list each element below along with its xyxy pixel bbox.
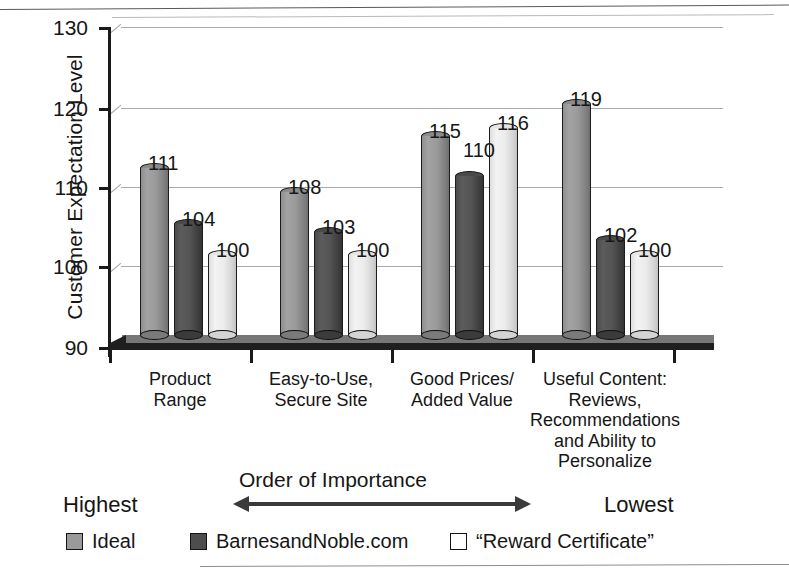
bar-ideal-useful-content	[562, 99, 591, 335]
bar-body	[140, 168, 169, 335]
category-line: Recommendations	[530, 410, 680, 431]
page-rule-top-secondary	[112, 14, 774, 18]
legend-item-barnesandnoble: BarnesandNoble.com	[190, 531, 408, 551]
value-label-ideal-useful-content: 119	[570, 89, 602, 109]
bar-bn-product-range	[174, 219, 203, 335]
value-label-reward-useful-content: 100	[638, 240, 671, 260]
legend-swatch-reward-certificate	[450, 533, 467, 550]
value-label-ideal-easy-to-use: 108	[288, 177, 321, 197]
bar-ideal-product-range	[140, 163, 169, 335]
bar-body	[174, 224, 203, 335]
floor-front-face	[110, 343, 714, 350]
value-label-bn-good-prices: 110	[463, 140, 495, 160]
category-line: Range	[110, 390, 250, 411]
bar-reward-product-range	[208, 250, 237, 335]
chart-figure: Customer Expectation Level	[0, 0, 789, 574]
category-line: Useful Content:	[530, 369, 680, 390]
x-tick-2	[391, 350, 394, 363]
category-line: and Ability to	[530, 431, 680, 452]
legend-swatch-barnesandnoble	[190, 533, 207, 550]
bar-body	[562, 104, 591, 335]
bar-reward-easy-to-use	[348, 250, 377, 335]
legend-item-reward-certificate: “Reward Certificate”	[450, 531, 654, 551]
bar-base	[421, 330, 450, 340]
bar-bn-good-prices	[455, 171, 484, 335]
bar-reward-useful-content	[630, 250, 659, 335]
bar-body	[596, 240, 625, 335]
y-tick-130	[99, 27, 111, 30]
legend-label-barnesandnoble: BarnesandNoble.com	[216, 531, 408, 551]
bar-base	[630, 330, 659, 340]
y-tick-label-110: 110	[42, 177, 88, 198]
value-label-reward-good-prices: 116	[497, 113, 529, 133]
y-tick-label-100: 100	[42, 256, 88, 277]
gridline-130	[121, 27, 723, 28]
bar-base	[489, 330, 518, 340]
bar-base	[174, 330, 203, 340]
category-line: Good Prices/	[391, 369, 533, 390]
bar-base	[280, 330, 309, 340]
bar-body	[455, 176, 484, 335]
page-rule-top	[0, 5, 789, 10]
chart-legend: Ideal BarnesandNoble.com “Reward Certifi…	[0, 527, 789, 555]
category-line: Secure Site	[250, 390, 392, 411]
bar-body	[314, 232, 343, 335]
category-label-easy-to-use: Easy-to-Use, Secure Site	[250, 369, 392, 410]
floor-left-skew	[110, 335, 126, 343]
y-tick-label-130: 130	[42, 17, 88, 38]
importance-right-label: Lowest	[604, 494, 674, 516]
bar-body	[208, 255, 237, 335]
bar-base	[455, 330, 484, 340]
bar-bn-useful-content	[596, 235, 625, 335]
bar-body	[630, 255, 659, 335]
importance-axis-title: Order of Importance	[239, 469, 427, 490]
bar-base	[140, 330, 169, 340]
value-label-ideal-good-prices: 115	[429, 121, 461, 141]
category-line: Product	[110, 369, 250, 390]
gridline-riser-110	[111, 184, 122, 193]
y-tick-110	[99, 187, 111, 190]
y-axis-line	[108, 27, 111, 357]
value-label-bn-useful-content: 102	[604, 225, 637, 245]
arrow-shaft	[247, 502, 517, 506]
bar-body	[280, 192, 309, 335]
value-label-bn-product-range: 104	[182, 209, 215, 229]
bar-ideal-easy-to-use	[280, 187, 309, 335]
category-label-useful-content: Useful Content: Reviews, Recommendations…	[530, 369, 680, 472]
gridline-riser-100	[111, 263, 122, 272]
y-tick-120	[99, 108, 111, 111]
x-tick-0	[109, 350, 112, 363]
y-tick-label-90: 90	[42, 337, 88, 358]
bar-body	[348, 255, 377, 335]
legend-label-ideal: Ideal	[92, 531, 135, 551]
bar-base	[562, 330, 591, 340]
importance-double-arrow	[233, 496, 531, 512]
plot-area	[108, 20, 723, 356]
gridline-riser-130	[111, 24, 122, 33]
x-tick-3	[532, 350, 535, 363]
bar-base	[208, 330, 237, 340]
gridline-120	[121, 108, 723, 109]
page-rule-bottom	[200, 564, 789, 567]
x-tick-4	[673, 350, 676, 363]
bar-body	[421, 136, 450, 335]
bar-bn-easy-to-use	[314, 227, 343, 335]
value-label-reward-product-range: 100	[216, 240, 249, 260]
legend-swatch-ideal	[66, 533, 83, 550]
bar-base	[348, 330, 377, 340]
legend-item-ideal: Ideal	[66, 531, 135, 551]
gridline-riser-120	[111, 105, 122, 114]
category-line: Reviews,	[530, 390, 680, 411]
arrow-right-head-icon	[515, 496, 531, 512]
importance-left-label: Highest	[63, 494, 138, 516]
bar-ideal-good-prices	[421, 131, 450, 335]
y-tick-100	[99, 266, 111, 269]
value-label-reward-easy-to-use: 100	[356, 240, 389, 260]
category-line: Personalize	[530, 451, 680, 472]
bar-base	[314, 330, 343, 340]
y-tick-label-120: 120	[42, 98, 88, 119]
category-label-good-prices: Good Prices/ Added Value	[391, 369, 533, 410]
bar-base	[596, 330, 625, 340]
x-tick-1	[250, 350, 253, 363]
category-line: Added Value	[391, 390, 533, 411]
